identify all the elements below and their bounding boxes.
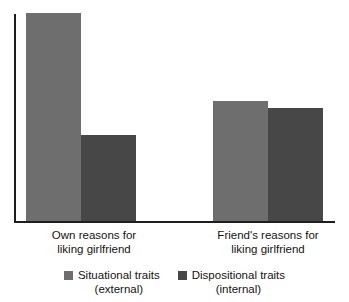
legend-item-situational: Situational traits (external) <box>64 268 160 296</box>
chart-legend: Situational traits (external) Dispositio… <box>0 268 349 302</box>
legend-swatch-icon-dispositional <box>178 271 187 280</box>
bar-friend-dispositional <box>268 108 323 221</box>
x-axis-label-own-reasons: Own reasons for liking girlfriend <box>14 228 174 256</box>
x-axis-label-friends-reasons: Friend's reasons for liking girlfriend <box>187 228 349 256</box>
legend-label-situational: Situational traits (external) <box>78 268 160 296</box>
legend-label-dispositional: Dispositional traits (internal) <box>192 268 285 296</box>
x-axis-line <box>14 221 335 223</box>
legend-swatch-icon-situational <box>64 271 73 280</box>
bar-own-situational <box>26 13 81 221</box>
bar-own-dispositional <box>81 135 136 221</box>
bar-chart-figure: Own reasons for liking girlfriend Friend… <box>0 0 349 302</box>
y-axis-line <box>14 14 16 222</box>
legend-item-dispositional: Dispositional traits (internal) <box>178 268 285 296</box>
bar-friend-situational <box>213 101 268 221</box>
plot-area <box>0 0 349 226</box>
category-labels: Own reasons for liking girlfriend Friend… <box>0 228 349 266</box>
